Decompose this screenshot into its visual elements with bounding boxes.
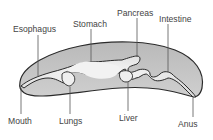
label-pancreas: Pancreas [117, 8, 153, 18]
liver-shape [119, 71, 132, 82]
label-stomach: Stomach [73, 19, 107, 29]
label-liver: Liver [119, 113, 138, 123]
label-esophagus: Esophagus [13, 24, 56, 34]
digestive-system-diagram: Esophagus Stomach Pancreas Intestine Mou… [0, 0, 213, 140]
label-lungs: Lungs [59, 116, 82, 126]
label-anus: Anus [178, 119, 198, 129]
label-intestine: Intestine [159, 14, 192, 24]
label-mouth: Mouth [8, 116, 32, 126]
